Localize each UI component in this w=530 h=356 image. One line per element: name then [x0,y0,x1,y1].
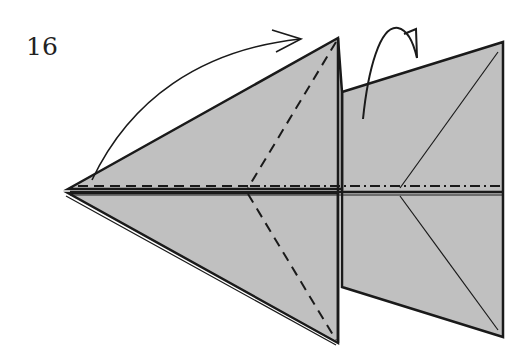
upper-flap [68,38,342,189]
lower-flap [68,193,338,343]
right-panel [342,42,503,337]
origami-diagram [0,0,530,356]
